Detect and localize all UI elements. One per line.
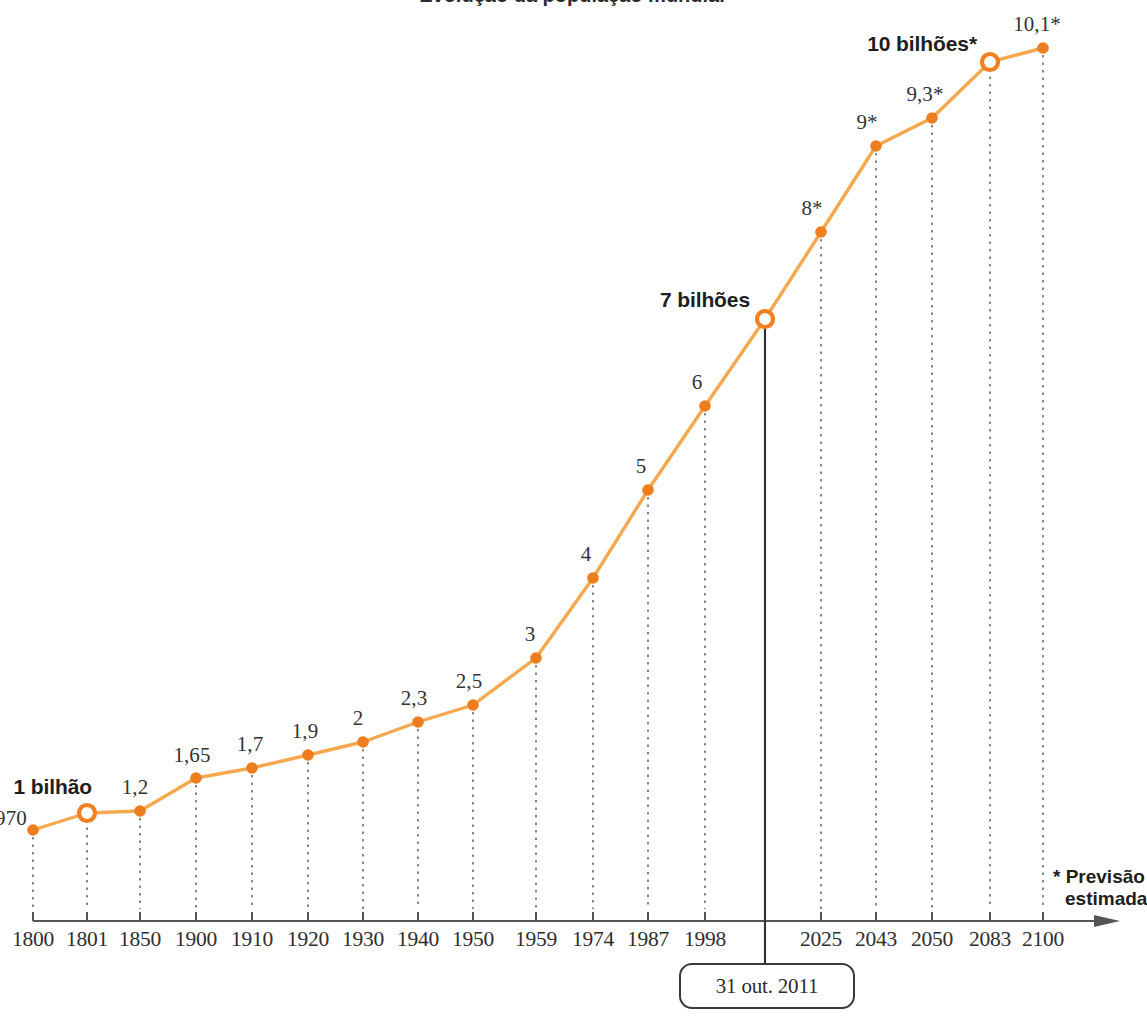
point-label-2043: 9* [856, 110, 877, 135]
data-point-marker-1910[interactable] [246, 762, 258, 774]
data-markers-group [27, 42, 1049, 836]
point-label-1987: 5 [636, 454, 647, 479]
series-line-group [33, 48, 1043, 830]
tick-label-1920: 1920 [287, 927, 329, 952]
tick-label-1987: 1987 [627, 927, 669, 952]
tick-label-1974: 1974 [572, 927, 614, 952]
point-label-1940: 2,3 [401, 686, 428, 711]
tick-label-1930: 1930 [342, 927, 384, 952]
tick-label-1801: 1801 [66, 927, 108, 952]
point-label-1950: 2,5 [456, 669, 483, 694]
point-label-2083: 10 bilhões* [867, 32, 977, 56]
data-point-marker-1930[interactable] [357, 736, 369, 748]
data-point-marker-2043[interactable] [870, 140, 882, 152]
data-point-marker-1900[interactable] [190, 772, 202, 784]
data-point-marker-1801[interactable] [79, 805, 95, 821]
forecast-legend-line2: estimada [1053, 888, 1147, 910]
point-label-1850: 1,2 [122, 775, 149, 800]
point-label-1930: 2 [353, 706, 364, 731]
tick-label-2050: 2050 [911, 927, 953, 952]
population-series-line [33, 48, 1043, 830]
forecast-legend-line1: * Previsão [1053, 866, 1145, 887]
data-point-marker-1987[interactable] [642, 484, 654, 496]
tick-label-1800: 1800 [12, 927, 54, 952]
point-label-1920: 1,9 [292, 719, 319, 744]
tick-label-1998: 1998 [684, 927, 726, 952]
point-label-1998: 6 [692, 370, 703, 395]
data-point-marker-2025[interactable] [815, 226, 827, 238]
tick-label-2025: 2025 [800, 927, 842, 952]
x-axis-arrow-icon [1094, 915, 1120, 927]
data-point-marker-1959[interactable] [530, 652, 542, 664]
tick-label-2043: 2043 [855, 927, 897, 952]
point-label-1900: 1,65 [173, 743, 210, 768]
tick-label-1940: 1940 [397, 927, 439, 952]
data-point-marker-2050[interactable] [926, 112, 938, 124]
forecast-legend: * Previsão estimada [1053, 866, 1147, 910]
tick-label-2083: 2083 [969, 927, 1011, 952]
point-label-2100: 10,1* [1013, 12, 1061, 37]
point-label-1800: 970 [0, 806, 27, 831]
point-label-2025: 8* [801, 196, 822, 221]
tick-label-1959: 1959 [515, 927, 557, 952]
data-point-marker-1998[interactable] [699, 400, 711, 412]
point-label-2050: 9,3* [906, 82, 943, 107]
tick-label-1850: 1850 [119, 927, 161, 952]
data-point-marker-1940[interactable] [412, 716, 424, 728]
tick-label-1910: 1910 [231, 927, 273, 952]
data-point-marker-1920[interactable] [302, 749, 314, 761]
data-point-marker-1950[interactable] [467, 699, 479, 711]
data-point-marker-1850[interactable] [134, 805, 146, 817]
point-label-1959: 3 [525, 622, 536, 647]
tick-label-1950: 1950 [452, 927, 494, 952]
point-label-1910: 1,7 [237, 732, 264, 757]
data-point-marker-2083[interactable] [982, 54, 998, 70]
data-point-marker-1800[interactable] [27, 824, 39, 836]
data-point-marker-2011[interactable] [757, 311, 773, 327]
point-label-1974: 4 [581, 542, 592, 567]
date-callout-box: 31 out. 2011 [679, 963, 855, 1009]
axis-group [33, 912, 1120, 927]
data-point-marker-2100[interactable] [1037, 42, 1049, 54]
point-label-1801: 1 bilhão [13, 775, 92, 799]
tick-label-2100: 2100 [1022, 927, 1064, 952]
point-label-2011: 7 bilhões [660, 288, 750, 312]
date-callout-label: 31 out. 2011 [716, 974, 818, 999]
data-point-marker-1974[interactable] [587, 572, 599, 584]
guide-lines-group [33, 55, 1043, 909]
tick-label-1900: 1900 [175, 927, 217, 952]
